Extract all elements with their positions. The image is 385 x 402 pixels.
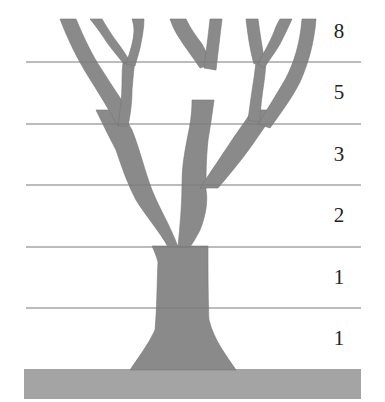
branch-left-inner bbox=[118, 58, 135, 126]
level-count-label: 8 bbox=[325, 19, 353, 43]
level-count-label: 1 bbox=[325, 265, 353, 289]
branch-right-inner-b bbox=[258, 19, 292, 68]
level-count-label: 1 bbox=[325, 326, 353, 350]
level-count-label: 2 bbox=[325, 203, 353, 227]
branch-left-main bbox=[96, 110, 178, 247]
level-count-label: 5 bbox=[325, 80, 353, 104]
branch-far-left bbox=[60, 19, 130, 126]
branch-far-right bbox=[258, 19, 316, 128]
tree bbox=[60, 19, 316, 370]
ground bbox=[24, 369, 361, 399]
branch-right-main bbox=[178, 100, 214, 247]
branch-left-inner-a bbox=[90, 19, 130, 64]
level-count-label: 3 bbox=[325, 142, 353, 166]
branch-left-inner-b bbox=[126, 19, 144, 66]
